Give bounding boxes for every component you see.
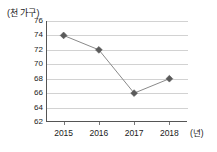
x-axis-tick-mark	[134, 122, 135, 125]
series-line	[64, 35, 170, 93]
y-axis-tick-label: 74	[25, 31, 43, 39]
y-axis-tick-label: 76	[25, 17, 43, 25]
y-axis-tick-label: 64	[25, 104, 43, 112]
y-axis-tick-label: 66	[25, 89, 43, 97]
x-axis-tick-label: 2015	[44, 128, 84, 138]
y-axis-tick-labels: 7674727068666462	[24, 21, 43, 122]
x-axis-tick-mark	[64, 122, 65, 125]
data-point-marker	[166, 75, 173, 82]
data-series-layer	[46, 21, 187, 122]
x-axis-tick-label: 2017	[114, 128, 154, 138]
x-axis-tick-labels: 2015201620172018	[46, 128, 187, 140]
y-axis-tick-label: 62	[25, 118, 43, 126]
x-axis-tick-mark	[169, 122, 170, 125]
x-axis-tick-label: 2016	[79, 128, 119, 138]
x-axis-tick-label: 2018	[149, 128, 189, 138]
y-axis-tick-label: 68	[25, 75, 43, 83]
x-axis-tick-mark	[99, 122, 100, 125]
x-axis-tick-marks	[46, 122, 187, 126]
data-point-marker	[60, 32, 67, 39]
line-chart: (천 가구) 7674727068666462 2015201620172018…	[0, 0, 217, 152]
y-axis-tick-label: 70	[25, 60, 43, 68]
x-axis-unit-label: (년)	[190, 128, 204, 138]
y-axis-tick-label: 72	[25, 46, 43, 54]
